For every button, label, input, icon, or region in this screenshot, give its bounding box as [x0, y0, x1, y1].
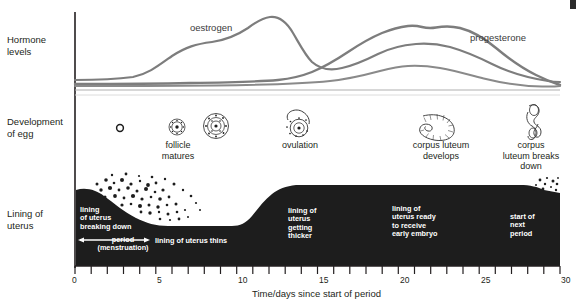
- hormone-label-oestrogen: oestrogen: [190, 22, 232, 33]
- page-edge-marker: [570, 0, 576, 9]
- oestrogen-curve: [75, 17, 560, 82]
- x-tick-label-0: 0: [72, 275, 77, 285]
- egg-stage-icon-follicle-large: [204, 114, 229, 139]
- x-tick-label-15: 15: [319, 275, 328, 285]
- x-tick-label-25: 25: [481, 275, 490, 285]
- x-tick-label-20: 20: [400, 275, 409, 285]
- egg-stage-icon-corpus-luteum-breaking: [527, 105, 541, 140]
- x-axis-ticks: [75, 266, 560, 274]
- lining-note-ready: lining of uterus ready to receive early …: [392, 205, 460, 239]
- egg-caption-follicle-matures: follicle matures: [148, 140, 208, 161]
- lining-note-breaking-down: lining of uterus breaking down: [80, 206, 146, 231]
- hormone-label-progesterone: progesterone: [470, 32, 526, 43]
- egg-caption-corpus-luteum-breaks-down: corpus luteum breaks down: [490, 140, 572, 172]
- lining-note-thickening: lining of uterus getting thicker: [288, 207, 336, 241]
- egg-caption-corpus-luteum-develops: corpus luteum develops: [396, 140, 486, 161]
- x-tick-label-5: 5: [157, 275, 162, 285]
- x-tick-label-10: 10: [238, 275, 247, 285]
- egg-stage-icon-follicle-small: [169, 119, 185, 135]
- egg-stage-icon-egg-dot: [117, 125, 124, 132]
- egg-stage-icon-corpus-luteum: [420, 114, 455, 141]
- menstrual-cycle-figure: Hormone levels Development of egg Lining…: [0, 0, 576, 306]
- egg-stage-icon-ovulation: [286, 110, 309, 137]
- lining-note-period: period (menstruation): [93, 236, 153, 253]
- lining-note-next-period: start of next period: [510, 213, 554, 238]
- x-axis-title: Time/days since start of period: [252, 288, 381, 299]
- lining-note-thins: lining of uterus thins: [155, 237, 255, 245]
- egg-caption-ovulation: ovulation: [268, 140, 332, 151]
- x-tick-label-30: 30: [561, 275, 570, 285]
